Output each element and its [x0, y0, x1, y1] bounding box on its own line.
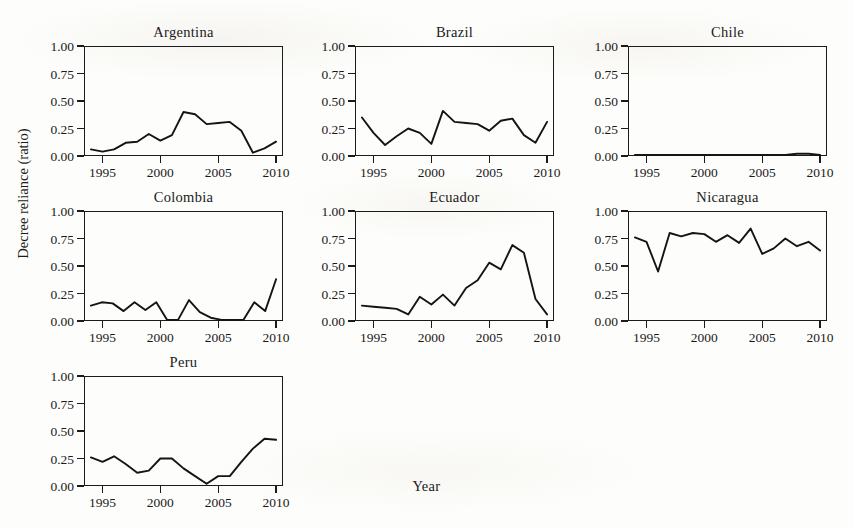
- y-tick-label: 0.50: [50, 425, 74, 438]
- x-tick-label: 1995: [633, 331, 660, 345]
- panel-title: Brazil: [355, 24, 554, 40]
- y-tick-label: 1.00: [50, 205, 74, 218]
- panel-argentina: Argentina0.000.250.500.751.0019952000200…: [24, 24, 293, 194]
- y-tick-label: 0.50: [594, 260, 618, 273]
- x-tick-label: 1995: [89, 496, 116, 510]
- x-tick-mark: [762, 321, 763, 328]
- x-tick-label: 2010: [807, 331, 834, 345]
- x-tick-mark: [762, 156, 763, 163]
- series-line-ecuador: [355, 211, 554, 321]
- y-tick-label: 0.50: [50, 260, 74, 273]
- x-tick-label: 2000: [418, 166, 445, 180]
- x-tick-mark: [431, 321, 432, 328]
- y-tick-mark: [348, 73, 355, 74]
- y-tick-label: 0.25: [321, 287, 345, 300]
- y-tick-label: 0.50: [321, 260, 345, 273]
- y-tick-label: 0.50: [50, 95, 74, 108]
- panel-brazil: Brazil0.000.250.500.751.0019952000200520…: [295, 24, 564, 194]
- x-tick-label: 2005: [749, 166, 776, 180]
- y-tick-mark: [348, 238, 355, 239]
- x-tick-label: 2005: [476, 331, 503, 345]
- x-tick-mark: [704, 156, 705, 163]
- y-tick-label: 0.75: [50, 67, 74, 80]
- y-tick-label: 1.00: [594, 205, 618, 218]
- y-tick-mark: [77, 293, 84, 294]
- x-tick-label: 2010: [263, 496, 290, 510]
- y-tick-label: 0.00: [50, 315, 74, 328]
- y-tick-mark: [348, 128, 355, 129]
- y-tick-label: 0.00: [321, 150, 345, 163]
- x-tick-label: 1995: [89, 331, 116, 345]
- x-tick-mark: [546, 156, 547, 163]
- y-tick-mark: [77, 100, 84, 101]
- y-tick-mark: [621, 45, 628, 46]
- y-tick-mark: [348, 155, 355, 156]
- x-tick-mark: [160, 486, 161, 493]
- y-tick-mark: [348, 100, 355, 101]
- y-tick-label: 0.00: [50, 150, 74, 163]
- series-line-argentina: [84, 46, 283, 156]
- x-tick-label: 2005: [476, 166, 503, 180]
- y-tick-label: 1.00: [50, 40, 74, 53]
- x-tick-label: 2010: [534, 331, 561, 345]
- panel-title: Nicaragua: [628, 189, 827, 205]
- x-tick-label: 1995: [89, 166, 116, 180]
- y-tick-mark: [621, 320, 628, 321]
- x-tick-mark: [102, 321, 103, 328]
- series-path: [362, 245, 547, 314]
- series-line-nicaragua: [628, 211, 827, 321]
- panel-chile: Chile0.000.250.500.751.00199520002005201…: [568, 24, 837, 194]
- series-path: [91, 112, 276, 153]
- x-tick-label: 2000: [147, 166, 174, 180]
- y-tick-label: 0.25: [594, 287, 618, 300]
- x-tick-mark: [819, 156, 820, 163]
- y-tick-mark: [621, 73, 628, 74]
- panel-title: Colombia: [84, 189, 283, 205]
- panel-colombia: Colombia0.000.250.500.751.00199520002005…: [24, 189, 293, 359]
- series-path: [91, 439, 276, 484]
- x-tick-label: 2000: [147, 496, 174, 510]
- y-tick-mark: [77, 403, 84, 404]
- x-tick-label: 1995: [633, 166, 660, 180]
- y-tick-label: 0.75: [321, 67, 345, 80]
- y-tick-label: 0.25: [321, 122, 345, 135]
- y-tick-label: 0.00: [321, 315, 345, 328]
- x-tick-mark: [160, 321, 161, 328]
- y-tick-label: 1.00: [50, 370, 74, 383]
- x-tick-mark: [646, 156, 647, 163]
- x-tick-label: 1995: [360, 331, 387, 345]
- x-tick-label: 2000: [147, 331, 174, 345]
- y-tick-mark: [621, 100, 628, 101]
- x-tick-mark: [489, 321, 490, 328]
- y-tick-mark: [621, 238, 628, 239]
- y-tick-label: 0.75: [50, 232, 74, 245]
- y-tick-label: 0.25: [50, 452, 74, 465]
- y-tick-mark: [77, 210, 84, 211]
- x-tick-label: 2000: [691, 166, 718, 180]
- y-tick-mark: [77, 458, 84, 459]
- y-tick-label: 0.50: [321, 95, 345, 108]
- x-tick-label: 2010: [263, 331, 290, 345]
- x-tick-label: 2010: [263, 166, 290, 180]
- x-tick-mark: [489, 156, 490, 163]
- series-line-chile: [628, 46, 827, 156]
- x-tick-mark: [160, 156, 161, 163]
- series-path: [635, 229, 820, 272]
- y-tick-label: 0.75: [594, 67, 618, 80]
- panel-title: Peru: [84, 354, 283, 370]
- y-tick-mark: [348, 293, 355, 294]
- y-tick-label: 0.00: [594, 150, 618, 163]
- panel-title: Chile: [628, 24, 827, 40]
- x-tick-label: 2005: [205, 331, 232, 345]
- x-tick-label: 2000: [691, 331, 718, 345]
- series-line-colombia: [84, 211, 283, 321]
- series-path: [635, 154, 820, 155]
- x-tick-label: 2000: [418, 331, 445, 345]
- y-tick-mark: [621, 293, 628, 294]
- y-tick-label: 0.50: [594, 95, 618, 108]
- x-tick-mark: [275, 486, 276, 493]
- y-tick-label: 0.75: [594, 232, 618, 245]
- y-tick-mark: [621, 128, 628, 129]
- y-tick-mark: [77, 73, 84, 74]
- y-tick-label: 0.75: [321, 232, 345, 245]
